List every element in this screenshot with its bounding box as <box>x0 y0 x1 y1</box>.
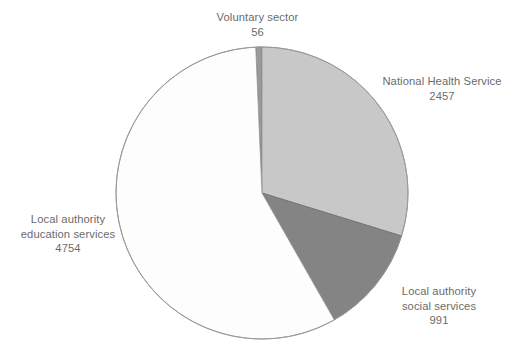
slice-label-local-authority-social-services-value: 991 <box>368 313 510 328</box>
slice-label-local-authority-social-services-line1: Local authority <box>368 284 510 299</box>
slice-label-local-authority-education-services: Local authority education services 4754 <box>2 212 134 256</box>
slice-label-national-health-service-value: 2457 <box>372 89 512 104</box>
pie-chart-figure: Voluntary sector 56 National Health Serv… <box>0 0 514 351</box>
slice-label-local-authority-social-services-line2: social services <box>368 299 510 314</box>
slice-label-national-health-service: National Health Service 2457 <box>372 74 512 103</box>
slice-label-local-authority-education-services-value: 4754 <box>2 241 134 256</box>
slice-label-voluntary-sector-line1: Voluntary sector <box>185 10 330 25</box>
slice-label-voluntary-sector: Voluntary sector 56 <box>185 10 330 39</box>
slice-label-voluntary-sector-value: 56 <box>185 25 330 40</box>
slice-label-local-authority-education-services-line2: education services <box>2 227 134 242</box>
slice-label-national-health-service-line1: National Health Service <box>372 74 512 89</box>
slice-label-local-authority-education-services-line1: Local authority <box>2 212 134 227</box>
slice-label-local-authority-social-services: Local authority social services 991 <box>368 284 510 328</box>
pie-slices-group <box>116 47 408 339</box>
